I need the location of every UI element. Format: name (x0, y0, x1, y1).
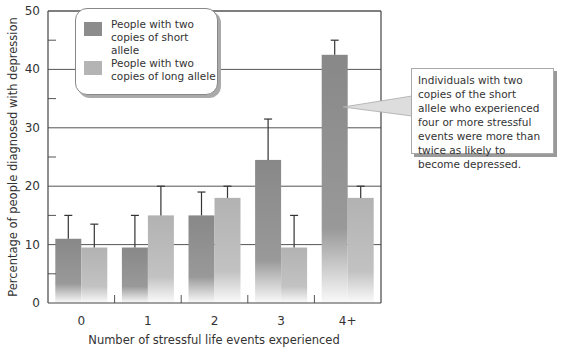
bar (122, 248, 148, 303)
x-tick-label: 2 (211, 314, 219, 328)
y-tick-label: 10 (25, 238, 40, 252)
legend-label-line2: copies of long allele (111, 70, 216, 83)
callout-pointer (343, 96, 412, 116)
bar (81, 248, 107, 303)
bar (281, 248, 307, 303)
long-allele-swatch (84, 61, 102, 75)
legend-label-line1: People with two (111, 18, 216, 31)
bar (255, 160, 281, 303)
y-tick-label: 40 (25, 62, 40, 76)
legend-item-short-allele: People with two copies of short allele (84, 18, 216, 57)
legend: People with two copies of short allele P… (75, 8, 218, 95)
bar (322, 55, 348, 303)
y-tick-label: 30 (25, 121, 40, 135)
bar (148, 215, 174, 303)
bar (189, 215, 215, 303)
annotation-callout: Individuals with two copies of the short… (411, 68, 554, 154)
y-axis-label: Percentage of people diagnosed with depr… (6, 17, 20, 297)
x-tick-label: 4+ (339, 314, 357, 328)
bar (348, 198, 374, 303)
x-tick-label: 3 (277, 314, 285, 328)
x-axis-label: Number of stressful life events experien… (88, 333, 339, 347)
legend-label-line1: People with two (111, 57, 216, 70)
x-tick-label: 1 (144, 314, 152, 328)
short-allele-swatch (84, 22, 102, 36)
bar (215, 198, 241, 303)
legend-label-line2: copies of short allele (111, 31, 216, 57)
bar (55, 239, 81, 303)
x-tick-label: 0 (77, 314, 85, 328)
legend-item-long-allele: People with two copies of long allele (84, 57, 216, 83)
y-tick-label: 20 (25, 179, 40, 193)
y-tick-label: 50 (25, 4, 40, 18)
y-tick-label: 0 (32, 296, 40, 310)
